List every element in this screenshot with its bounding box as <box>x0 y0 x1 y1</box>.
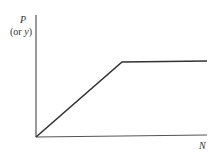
x-axis-label: N <box>198 140 207 151</box>
y-axis-label: P <box>19 14 26 25</box>
y-axis-sublabel: (or y) <box>10 26 32 38</box>
chart-figure: P (or y) N <box>0 0 220 154</box>
x-axis <box>36 135 207 137</box>
data-line-series <box>36 61 207 137</box>
